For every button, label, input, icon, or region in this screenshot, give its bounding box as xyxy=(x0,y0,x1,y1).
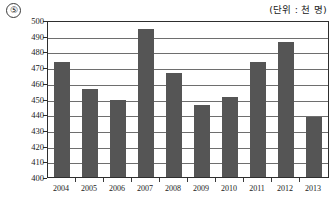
y-tick-mark xyxy=(43,68,47,69)
x-tick-label: 2012 xyxy=(277,184,293,193)
x-tick-label: 2007 xyxy=(137,184,153,193)
x-tick-mark xyxy=(187,178,188,182)
bar-series xyxy=(48,22,328,177)
y-tick-label: 460 xyxy=(4,79,44,89)
bar xyxy=(54,62,71,177)
y-tick-label: 440 xyxy=(4,110,44,120)
x-tick-label: 2004 xyxy=(53,184,69,193)
x-tick-label: 2011 xyxy=(249,184,265,193)
y-tick-label: 410 xyxy=(4,157,44,167)
bar xyxy=(82,89,99,177)
y-tick-mark xyxy=(43,162,47,163)
y-tick-label: 400 xyxy=(4,173,44,183)
bar xyxy=(166,73,183,177)
bar-chart: 400410420430440450460470480490500 200420… xyxy=(0,18,333,203)
plot-area xyxy=(47,21,329,178)
bar xyxy=(138,29,155,177)
bar xyxy=(278,42,295,177)
bar xyxy=(222,97,239,177)
y-tick-mark xyxy=(43,37,47,38)
x-tick-label: 2009 xyxy=(193,184,209,193)
x-axis: 2004200520062007200820092010201120122013 xyxy=(47,178,329,202)
y-tick-mark xyxy=(43,115,47,116)
y-tick-label: 490 xyxy=(4,32,44,42)
y-tick-mark xyxy=(43,21,47,22)
y-tick-label: 450 xyxy=(4,95,44,105)
x-tick-mark xyxy=(75,178,76,182)
bar xyxy=(194,105,211,177)
bar xyxy=(306,117,323,177)
x-tick-mark xyxy=(299,178,300,182)
y-tick-mark xyxy=(43,100,47,101)
y-tick-mark xyxy=(43,147,47,148)
x-tick-label: 2013 xyxy=(305,184,321,193)
y-tick-label: 500 xyxy=(4,16,44,26)
x-tick-mark xyxy=(131,178,132,182)
x-tick-label: 2005 xyxy=(81,184,97,193)
x-tick-mark xyxy=(243,178,244,182)
y-tick-label: 480 xyxy=(4,47,44,57)
x-tick-label: 2008 xyxy=(165,184,181,193)
y-tick-label: 470 xyxy=(4,63,44,73)
y-tick-mark xyxy=(43,84,47,85)
y-tick-label: 430 xyxy=(4,126,44,136)
y-tick-mark xyxy=(43,52,47,53)
x-tick-label: 2006 xyxy=(109,184,125,193)
y-tick-label: 420 xyxy=(4,142,44,152)
x-tick-mark xyxy=(159,178,160,182)
chart-unit-label: (단위 : 천 명) xyxy=(269,2,327,16)
x-tick-mark xyxy=(271,178,272,182)
bar xyxy=(110,100,127,177)
y-tick-mark xyxy=(43,131,47,132)
bar xyxy=(250,62,267,177)
x-tick-mark xyxy=(103,178,104,182)
x-tick-mark xyxy=(215,178,216,182)
x-tick-label: 2010 xyxy=(221,184,237,193)
